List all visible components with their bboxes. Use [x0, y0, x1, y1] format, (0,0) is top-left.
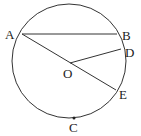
- label-b: B: [122, 28, 131, 43]
- geometry-diagram: A B D O E C: [0, 0, 141, 136]
- label-c: C: [69, 120, 78, 135]
- label-d: D: [125, 45, 134, 60]
- diameter-ae: [22, 34, 116, 90]
- label-o: O: [63, 66, 72, 81]
- circle-o: [12, 4, 126, 118]
- diagram-svg: A B D O E C: [0, 0, 141, 136]
- label-e: E: [119, 87, 127, 102]
- label-a: A: [5, 27, 15, 42]
- radius-od: [70, 49, 121, 63]
